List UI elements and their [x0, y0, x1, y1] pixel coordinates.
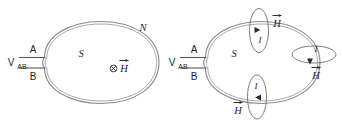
field-vector-label-group: H — [119, 59, 129, 74]
left-panel: V AB A B S N H — [8, 22, 159, 104]
coil-left-bend-inner — [206, 58, 208, 68]
terminal-label-b: B — [191, 71, 198, 82]
field-loop-bottom-arrow — [255, 95, 261, 101]
source-voltage-subscript: AB — [17, 63, 27, 70]
field-loop-right: I H — [292, 44, 336, 81]
terminal-label-a: A — [191, 44, 198, 55]
right-coil-outline — [204, 22, 320, 104]
figure-root: V AB A B S N H — [0, 0, 342, 124]
coil-left-bend — [43, 58, 45, 69]
pole-label-s: S — [78, 48, 84, 59]
vector-arrow-head — [126, 59, 129, 62]
coil-inner-curve — [47, 24, 157, 101]
field-label-top: H — [272, 18, 282, 29]
pole-label-n: N — [138, 22, 147, 33]
right-panel: V AB A B S I H I H — [169, 9, 336, 120]
field-loop-top-arrow — [255, 27, 261, 33]
field-label-top-arrow-head — [279, 14, 282, 17]
current-label-top: I — [258, 35, 263, 45]
field-loop-bottom: I H — [233, 75, 266, 119]
field-label-right: H — [311, 70, 321, 81]
source-voltage-subscript: AB — [178, 63, 188, 70]
left-coil-outline — [43, 22, 159, 104]
field-label-bottom: H — [233, 105, 243, 116]
field-into-page-icon — [110, 65, 117, 72]
terminal-label-a: A — [30, 44, 37, 55]
coil-left-bend — [204, 58, 206, 69]
pole-label-s: S — [231, 48, 237, 59]
coil-inner-curve — [208, 24, 318, 101]
field-label-h: H — [119, 63, 129, 74]
source-voltage-label: V — [8, 57, 15, 68]
field-loop-top: I H — [250, 9, 283, 53]
coil-left-bend-inner — [45, 58, 47, 68]
current-label-bottom: I — [254, 81, 259, 91]
field-loop-right-arrow — [307, 59, 313, 65]
source-voltage-label: V — [169, 57, 176, 68]
terminal-label-b: B — [30, 71, 37, 82]
coil-field-diagram: V AB A B S N H — [0, 0, 342, 124]
